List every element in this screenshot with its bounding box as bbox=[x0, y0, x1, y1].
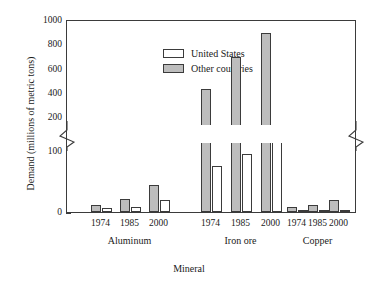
legend-swatch-other-countries bbox=[163, 64, 184, 73]
legend-swatch-united-states bbox=[163, 49, 184, 58]
y-tick-label-0: 0 bbox=[0, 208, 62, 218]
bar-other-countries-2 bbox=[149, 185, 159, 212]
legend-label-other-countries: Other countries bbox=[191, 62, 253, 75]
x-group-label-aluminum: Aluminum bbox=[108, 235, 151, 246]
x-tick-label-5: 2000 bbox=[261, 218, 280, 228]
x-tick-label-3: 1974 bbox=[201, 218, 220, 228]
bar-other-countries-7 bbox=[308, 205, 318, 212]
bar-other-countries-1 bbox=[120, 199, 130, 212]
y-axis-break-right-icon bbox=[347, 121, 365, 151]
bar-united-states-3 bbox=[212, 166, 222, 212]
bar-other-countries-4-upper bbox=[231, 57, 241, 125]
x-tick-label-7: 1985 bbox=[308, 218, 327, 228]
x-tick-label-2: 2000 bbox=[149, 218, 168, 228]
bar-united-states-6 bbox=[298, 210, 308, 212]
x-tick-label-8: 2000 bbox=[329, 218, 348, 228]
bar-other-countries-5-upper bbox=[261, 33, 271, 125]
bar-other-countries-5 bbox=[261, 143, 271, 212]
x-tick-label-4: 1985 bbox=[231, 218, 250, 228]
x-group-label-iron-ore: Iron ore bbox=[225, 235, 257, 246]
y-tick-label-800: 800 bbox=[0, 40, 62, 50]
bar-other-countries-3 bbox=[201, 143, 211, 212]
bar-other-countries-4 bbox=[231, 143, 241, 212]
bar-united-states-2 bbox=[160, 200, 170, 212]
chart-figure: Demand (millions of metric tons) 1000800… bbox=[0, 0, 378, 290]
bar-united-states-0 bbox=[102, 208, 112, 212]
y-tick-label-400: 400 bbox=[0, 89, 62, 99]
bar-other-countries-0 bbox=[91, 205, 101, 212]
y-tick-label-600: 600 bbox=[0, 65, 62, 75]
y-tick-label-100: 100 bbox=[0, 147, 62, 157]
y-tick-label-1000: 1000 bbox=[0, 16, 62, 26]
bar-united-states-8 bbox=[340, 210, 350, 212]
bar-other-countries-6 bbox=[287, 207, 297, 212]
bar-united-states-7 bbox=[319, 210, 329, 212]
bar-united-states-4 bbox=[242, 154, 252, 212]
bar-other-countries-8 bbox=[329, 200, 339, 212]
bar-united-states-5 bbox=[272, 143, 282, 212]
bar-united-states-1 bbox=[131, 207, 141, 212]
x-group-label-copper: Copper bbox=[303, 235, 332, 246]
plot-area: United States Other countries bbox=[66, 20, 356, 213]
x-tick-label-6: 1974 bbox=[287, 218, 306, 228]
y-tick-label-200: 200 bbox=[0, 113, 62, 123]
y-axis-break-left-icon bbox=[58, 121, 76, 151]
x-tick-label-1: 1985 bbox=[120, 218, 139, 228]
bar-other-countries-3-upper bbox=[201, 89, 211, 125]
y-axis-label: Demand (millions of metric tons) bbox=[25, 24, 36, 224]
x-axis-label: Mineral bbox=[0, 263, 378, 274]
x-tick-label-0: 1974 bbox=[91, 218, 110, 228]
y-tick-mark-0 bbox=[66, 213, 71, 214]
